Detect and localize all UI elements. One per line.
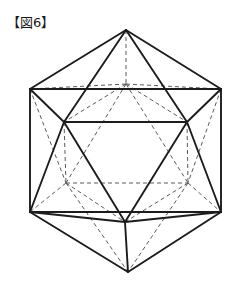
hidden-edge-17 [128,183,188,272]
visible-edge-7 [187,89,221,122]
hidden-edge-5 [66,84,126,183]
hidden-edge-9 [64,122,66,183]
visible-edge-3 [126,30,187,122]
visible-edge-0 [30,30,126,89]
figure-container: 【図6】 [0,0,251,293]
visible-edge-2 [64,30,126,122]
visible-edge-11 [64,122,125,222]
visible-edge-1 [126,30,221,89]
visible-edge-12 [187,122,221,212]
icosahedron-diagram [0,0,251,293]
visible-edge-5 [30,89,64,122]
hidden-edge-6 [126,84,188,183]
visible-edge-13 [125,122,187,222]
hidden-edge-7 [30,89,66,183]
visible-edge-19 [125,222,128,272]
hidden-edge-10 [187,122,188,183]
hidden-edge-16 [66,183,128,272]
